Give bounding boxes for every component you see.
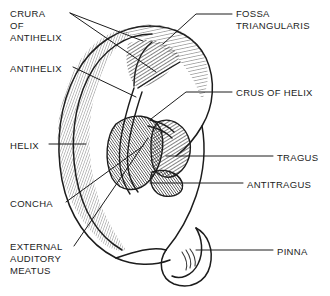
label-helix: HELIX — [10, 140, 39, 152]
leader-crus-of-helix — [151, 92, 232, 119]
lobule-detail — [182, 249, 195, 270]
label-external-auditory-meatus: EXTERNAL AUDITORY MEATUS — [10, 241, 63, 278]
label-crura-of-antihelix: CRURA OF ANTIHELIX — [10, 8, 62, 45]
label-antihelix: ANTIHELIX — [10, 63, 62, 75]
label-crus-of-helix: CRUS OF HELIX — [236, 87, 313, 99]
label-pinna: PINNA — [277, 246, 308, 258]
label-concha: CONCHA — [10, 198, 53, 210]
label-antitragus: ANTITRAGUS — [247, 179, 311, 191]
label-tragus: TRAGUS — [277, 152, 318, 164]
ear-anatomy-diagram: CRURA OF ANTIHELIX ANTIHELIX HELIX CONCH… — [0, 0, 330, 296]
label-fossa-triangularis: FOSSA TRIANGULARIS — [236, 8, 310, 32]
